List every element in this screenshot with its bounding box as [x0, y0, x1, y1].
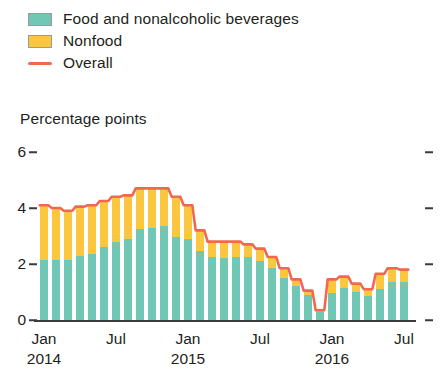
bar-segment-nonfood	[196, 230, 205, 251]
bar-segment-nonfood	[136, 188, 145, 229]
bar-stack	[40, 205, 49, 320]
x-axis-tick-label-month: Jan	[176, 330, 201, 348]
plot-area: 0246Jan2014JulJan2015JulJan2016Jul	[0, 0, 446, 372]
bar-segment-nonfood	[244, 244, 253, 257]
bar-segment-food	[148, 228, 157, 320]
bar-stack	[268, 257, 277, 320]
bar-segment-food	[136, 229, 145, 320]
y-axis-tick-label: 4	[8, 199, 26, 217]
bar-segment-food	[280, 278, 289, 320]
bar-stack	[64, 211, 73, 320]
x-axis-tick-label-year: 2015	[171, 350, 205, 368]
bar-segment-nonfood	[352, 284, 361, 292]
bar-segment-nonfood	[172, 197, 181, 238]
x-axis-tick-label-month: Jul	[106, 330, 126, 348]
bar-segment-nonfood	[220, 242, 229, 259]
bar-stack	[124, 195, 133, 320]
bar-stack	[316, 310, 325, 320]
bar-segment-nonfood	[88, 205, 97, 254]
bar-stack	[388, 268, 397, 320]
bar-segment-food	[76, 256, 85, 320]
bar-segment-food	[172, 237, 181, 320]
bar-segment-food	[340, 288, 349, 320]
bar-segment-nonfood	[76, 207, 85, 256]
bar-segment-food	[232, 257, 241, 320]
bar-segment-nonfood	[328, 279, 337, 293]
y-axis-tick-mark	[29, 263, 37, 265]
bar-segment-food	[388, 282, 397, 320]
bar-segment-food	[52, 260, 61, 320]
x-axis-tick-label-month: Jul	[250, 330, 270, 348]
bar-stack	[172, 197, 181, 320]
y-axis-tick-mark-right	[425, 151, 433, 153]
bar-segment-nonfood	[40, 205, 49, 260]
y-axis-tick-label: 6	[8, 143, 26, 161]
bar-segment-nonfood	[184, 205, 193, 239]
bar-stack	[328, 279, 337, 320]
bar-segment-food	[304, 295, 313, 320]
bar-segment-nonfood	[232, 242, 241, 257]
bar-segment-nonfood	[340, 277, 349, 288]
bar-stack	[352, 284, 361, 320]
bar-stack	[292, 279, 301, 320]
bar-segment-food	[256, 261, 265, 320]
x-axis-tick-label-year: 2014	[27, 350, 61, 368]
bar-segment-nonfood	[280, 268, 289, 278]
bar-segment-food	[88, 254, 97, 320]
bar-segment-food	[64, 260, 73, 320]
bar-segment-food	[364, 296, 373, 320]
bar-stack	[244, 244, 253, 320]
bar-segment-nonfood	[100, 201, 109, 247]
bar-segment-nonfood	[160, 188, 169, 226]
bar-segment-nonfood	[388, 268, 397, 282]
bar-segment-food	[40, 260, 49, 320]
bar-segment-nonfood	[208, 242, 217, 257]
bar-segment-food	[196, 251, 205, 320]
x-axis-baseline	[34, 320, 416, 322]
y-axis-tick-mark-right	[425, 263, 433, 265]
bar-stack	[76, 207, 85, 320]
bar-segment-nonfood	[52, 208, 61, 260]
bar-segment-food	[352, 292, 361, 320]
x-axis-tick-label-month: Jul	[394, 330, 414, 348]
bar-stack	[148, 188, 157, 320]
bar-stack	[220, 242, 229, 320]
bar-segment-food	[208, 257, 217, 320]
bar-segment-food	[376, 289, 385, 320]
y-axis-tick-mark-right	[425, 319, 433, 321]
bar-segment-nonfood	[112, 197, 121, 242]
x-axis-tick-label-year: 2016	[315, 350, 349, 368]
bar-segment-nonfood	[148, 188, 157, 227]
bar-segment-food	[220, 258, 229, 320]
bar-stack	[340, 277, 349, 320]
bar-segment-food	[184, 239, 193, 320]
bar-stack	[184, 205, 193, 320]
bar-stack	[160, 188, 169, 320]
bar-stack	[112, 197, 121, 320]
bar-stack	[88, 205, 97, 320]
bar-segment-nonfood	[268, 257, 277, 268]
y-axis-tick-label: 2	[8, 255, 26, 273]
bar-segment-nonfood	[64, 211, 73, 260]
bar-stack	[304, 291, 313, 320]
bar-segment-nonfood	[376, 274, 385, 289]
bar-stack	[196, 230, 205, 320]
bar-segment-food	[160, 226, 169, 320]
y-axis-tick-label: 0	[8, 311, 26, 329]
x-axis-tick-label-month: Jan	[320, 330, 345, 348]
bar-stack	[52, 208, 61, 320]
y-axis-tick-mark	[29, 151, 37, 153]
bar-segment-food	[316, 312, 325, 320]
bar-stack	[232, 242, 241, 320]
bar-segment-food	[292, 286, 301, 320]
x-axis-tick-label-month: Jan	[32, 330, 57, 348]
bar-segment-nonfood	[124, 195, 133, 238]
bar-stack	[256, 249, 265, 320]
bar-stack	[280, 268, 289, 320]
bar-segment-food	[328, 293, 337, 320]
bar-segment-food	[268, 268, 277, 320]
bar-stack	[208, 242, 217, 320]
bar-stack	[400, 270, 409, 320]
bar-stack	[100, 201, 109, 320]
bar-segment-food	[124, 239, 133, 320]
